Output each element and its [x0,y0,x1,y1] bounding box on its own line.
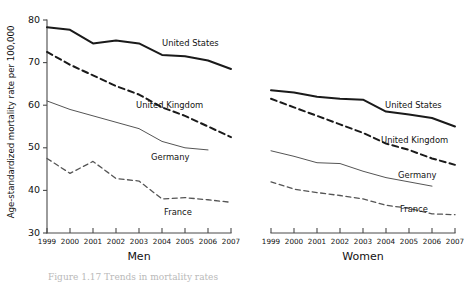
x-tick-label: 2006 [199,237,218,246]
series-label-men-uk: United Kingdom [136,100,203,110]
series-line-men-uk [47,52,231,137]
x-tick-label: 2007 [222,237,240,246]
x-tick-label: 2002 [107,237,125,246]
series-label-women-de: Germany [398,170,437,180]
men-series-group [47,27,231,202]
x-tick-label: 2004 [377,237,396,246]
x-tick-label: 2006 [423,237,442,246]
y-tick-label: 30 [28,227,40,238]
series-label-men-fr: France [164,207,192,217]
x-tick-label: 2002 [331,237,349,246]
x-tick-label: 2000 [285,237,304,246]
y-tick-label: 80 [28,14,40,25]
y-tick-group: 304050607080 [28,14,47,238]
y-axis-label: Age-standardized mortality rate per 100,… [6,26,16,219]
series-label-men-us: United States [162,38,219,48]
series-label-women-us: United States [385,100,442,110]
series-label-women-uk: United Kingdom [381,135,448,145]
y-tick-label: 60 [28,99,40,110]
men-x-tick-group: 199920002001200220032004200520062007 [38,228,240,246]
y-tick-label: 40 [28,184,40,195]
y-tick-label: 70 [28,56,40,67]
series-label-men-de: Germany [151,152,190,162]
figure-caption: Figure 1.17 Trends in mortality rates [48,272,448,282]
panel-label-women: Women [342,250,383,263]
panel-men: 199920002001200220032004200520062007 Men… [38,27,240,263]
y-tick-label: 50 [28,141,40,152]
x-tick-label: 2001 [308,237,326,246]
panel-women: 199920002001200220032004200520062007 Wom… [262,90,464,263]
x-tick-label: 2003 [130,237,148,246]
series-line-women-de [271,151,432,186]
x-tick-label: 1999 [262,237,281,246]
women-x-tick-group: 199920002001200220032004200520062007 [262,228,464,246]
x-tick-label: 2005 [400,237,418,246]
x-tick-label: 2007 [446,237,464,246]
y-axis: 304050607080 [28,14,47,238]
panel-label-men: Men [127,250,150,263]
x-tick-label: 2004 [153,237,172,246]
x-tick-label: 2005 [176,237,194,246]
figure-container: Age-standardized mortality rate per 100,… [0,0,469,284]
series-line-men-us [47,27,231,69]
line-chart: Age-standardized mortality rate per 100,… [0,0,469,284]
series-label-women-fr: France [400,204,428,214]
x-tick-label: 2003 [354,237,372,246]
x-tick-label: 1999 [38,237,57,246]
series-line-men-fr [47,158,231,202]
x-tick-label: 2001 [84,237,102,246]
x-tick-label: 2000 [61,237,80,246]
